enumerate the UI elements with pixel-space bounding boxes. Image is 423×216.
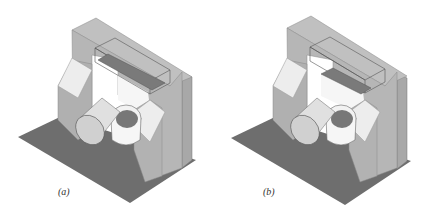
panel-a: (a)	[0, 0, 212, 216]
panel-b: (b)	[211, 0, 423, 216]
caption-a: (a)	[58, 186, 70, 197]
gantry-illustration-b	[211, 0, 423, 216]
right-pillar-side	[397, 73, 407, 169]
gantry-illustration-a	[0, 0, 212, 216]
right-pillar-side	[182, 72, 192, 168]
caption-b: (b)	[263, 186, 275, 197]
